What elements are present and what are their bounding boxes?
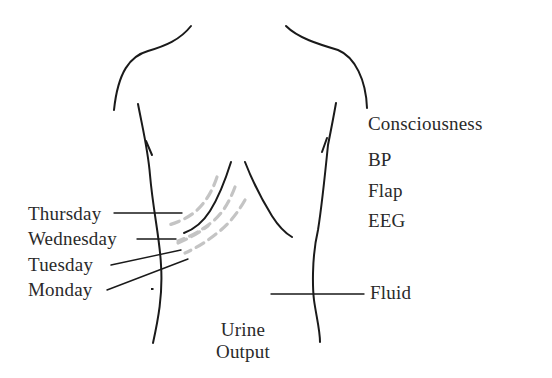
mark-dot (151, 288, 154, 290)
dashed-margin-monday (185, 200, 245, 253)
label-fluid: Fluid (370, 283, 411, 302)
label-monday: Monday (28, 280, 93, 299)
left-flank-outline (138, 104, 161, 343)
leader-tuesday (111, 250, 181, 265)
label-urine: Urine (203, 320, 283, 339)
right-costal-margin (245, 162, 292, 237)
right-shoulder-outline (286, 26, 367, 108)
label-bp: BP (368, 150, 392, 169)
label-thursday: Thursday (28, 204, 101, 223)
label-eeg: EEG (368, 211, 406, 230)
label-wednesday: Wednesday (28, 229, 117, 248)
label-flap: Flap (368, 181, 403, 200)
label-tuesday: Tuesday (28, 255, 93, 274)
label-consciousness: Consciousness (368, 114, 483, 133)
right-flank-outline (313, 103, 336, 342)
label-output: Output (203, 342, 283, 361)
right-flank-arrowhead-icon (322, 138, 327, 152)
left-shoulder-outline (114, 26, 191, 110)
dashed-margin-thursday (169, 177, 217, 225)
